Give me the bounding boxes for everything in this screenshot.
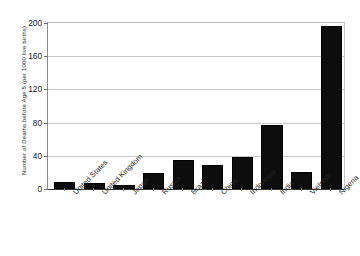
x-axis-labels: United StatesUnited KingdomJapanRussiaBr… (47, 190, 343, 256)
x-tick-mark (93, 188, 94, 191)
x-tick-mark (241, 188, 242, 191)
x-tick-mark (301, 188, 302, 191)
y-tick-label: 0 (37, 184, 42, 194)
bar-series (48, 23, 344, 189)
x-tick-mark (123, 188, 124, 191)
x-tick-mark (182, 188, 183, 191)
y-tick-label: 120 (28, 84, 42, 94)
x-tick-mark (212, 188, 213, 191)
y-tick-label: 40 (33, 151, 42, 161)
x-tick-mark (153, 188, 154, 191)
y-tick-label: 80 (33, 118, 42, 128)
x-tick-mark (64, 188, 65, 191)
y-tick-label: 160 (28, 51, 42, 61)
x-tick-mark (271, 188, 272, 191)
y-axis-title: Number of Deaths before Age 5 (per 1000 … (20, 11, 27, 191)
bar (321, 26, 342, 189)
plot-area: 04080120160200 (47, 22, 345, 190)
y-tick-label: 200 (28, 18, 42, 28)
x-tick-mark (330, 188, 331, 191)
